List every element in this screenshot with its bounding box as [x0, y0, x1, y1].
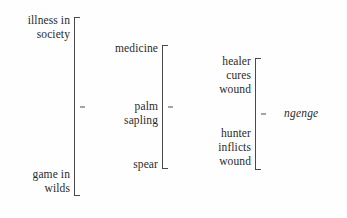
label-line: sapling [78, 113, 158, 127]
result-term-ngenge: ngenge [284, 106, 318, 120]
label-line: inflicts [175, 140, 251, 154]
label-line: healer [175, 54, 251, 68]
bracket-column-3 [255, 58, 261, 170]
label-line: society [0, 27, 70, 41]
label-line: game in [0, 167, 70, 181]
label-line: palm [78, 99, 158, 113]
label-hunter-inflicts-wound: hunter inflicts wound [175, 126, 251, 168]
label-game-in-wilds: game in wilds [0, 167, 70, 195]
bracket-tick-column-3 [261, 114, 266, 115]
label-line: medicine [78, 41, 158, 55]
bracket-diagram: illness in society game in wilds medicin… [0, 0, 347, 218]
label-line: cures [175, 68, 251, 82]
label-line: hunter [175, 126, 251, 140]
bracket-tick-column-2 [168, 107, 173, 108]
label-healer-cures-wound: healer cures wound [175, 54, 251, 96]
label-medicine: medicine [78, 41, 158, 55]
label-line: spear [78, 157, 158, 171]
label-line: illness in [0, 13, 70, 27]
label-spear: spear [78, 157, 158, 171]
label-line: wound [175, 154, 251, 168]
label-line: wilds [0, 181, 70, 195]
label-palm-sapling: palm sapling [78, 99, 158, 127]
label-illness-in-society: illness in society [0, 13, 70, 41]
label-line: wound [175, 82, 251, 96]
bracket-column-2 [162, 45, 168, 169]
